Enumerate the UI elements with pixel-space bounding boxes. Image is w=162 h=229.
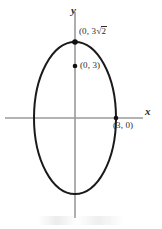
y-axis-label: y — [71, 5, 76, 16]
ellipse-figure: y x (0, 3√2 (0, 3) (3, 0) — [0, 0, 162, 229]
x-axis-label: x — [145, 106, 151, 117]
point-marker-top-vertex — [72, 39, 78, 45]
radicand-value: 2 — [101, 26, 107, 36]
point-marker-interior-point — [73, 64, 78, 69]
sqrt-group: √2 — [96, 26, 107, 36]
point-label-top-vertex: (0, 3√2 — [79, 26, 107, 36]
point-label-interior-point: (0, 3) — [80, 61, 100, 70]
point-label-x-intercept: (3, 0) — [113, 121, 133, 130]
top-vertex-label-prefix: (0, 3 — [79, 26, 96, 36]
scan-artifact — [38, 216, 124, 225]
